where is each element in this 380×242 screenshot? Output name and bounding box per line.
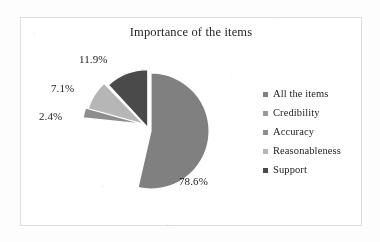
chart-legend: All the items Credibility Accuracy Reaso…	[263, 85, 363, 180]
legend-item-credibility[interactable]: Credibility	[263, 104, 363, 123]
pie-label-all-the-items: 78.6%	[179, 175, 208, 187]
legend-item-label: Credibility	[273, 108, 320, 119]
chart-frame: Importance of the items 11.9% 7.1% 2.4	[20, 17, 362, 226]
legend-swatch-icon	[263, 111, 268, 116]
legend-item-reasonableness[interactable]: Reasonableness	[263, 142, 363, 161]
pie-label-reasonableness: 7.1%	[51, 82, 74, 94]
pie-label-accuracy: 2.4%	[39, 110, 62, 122]
legend-item-label: Support	[273, 165, 307, 176]
legend-item-accuracy[interactable]: Accuracy	[263, 123, 363, 142]
legend-swatch-icon	[263, 168, 268, 173]
pie-slice-all-the-items[interactable]	[138, 73, 209, 189]
legend-swatch-icon	[263, 149, 268, 154]
pie-label-support: 11.9%	[79, 53, 108, 65]
legend-item-support[interactable]: Support	[263, 161, 363, 180]
legend-item-all-the-items[interactable]: All the items	[263, 85, 363, 104]
pie-slices	[83, 70, 209, 189]
figure-page: Importance of the items 11.9% 7.1% 2.4	[0, 0, 380, 242]
legend-swatch-icon	[263, 130, 268, 135]
legend-item-label: All the items	[273, 89, 329, 100]
legend-item-label: Reasonableness	[273, 146, 341, 157]
legend-swatch-icon	[263, 92, 268, 97]
pie-plot-area: 11.9% 7.1% 2.4% 78.6%	[21, 18, 271, 225]
legend-item-label: Accuracy	[273, 127, 314, 138]
